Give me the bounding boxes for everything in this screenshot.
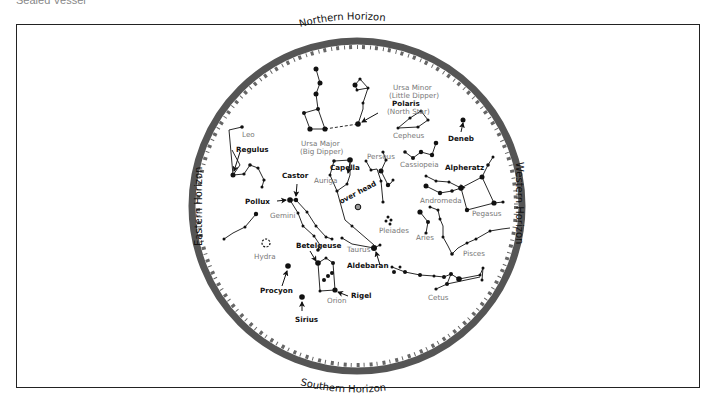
label-rigel: Rigel	[351, 291, 371, 300]
western-horizon-label: Western Horizon	[514, 162, 525, 244]
label-gemini: Gemini	[270, 211, 296, 220]
label-pleiades: Pleiades	[379, 226, 409, 235]
label-ursa-major-alt: (Big Dipper)	[300, 147, 344, 156]
star-chart: Northern Horizon Southern Horizon Easter…	[0, 0, 713, 402]
southern-horizon-label: Southern Horizon	[300, 376, 387, 394]
label-perseus: Perseus	[367, 152, 395, 161]
label-leo: Leo	[242, 130, 255, 139]
label-auriga: Auriga	[314, 176, 337, 185]
label-cetus: Cetus	[428, 293, 449, 302]
label-cassiopeia: Cassiopeia	[400, 160, 439, 169]
label-betelgeuse: Betelgeuse	[296, 241, 342, 250]
overhead-label: over head	[338, 179, 378, 206]
northern-horizon-label: Northern Horizon	[298, 10, 386, 28]
label-orion: Orion	[327, 296, 347, 305]
label-taurus: Taurus	[346, 245, 371, 254]
label-capella: Capella	[330, 163, 360, 172]
label-polaris-alt: (North Star)	[387, 107, 430, 116]
label-pollux: Pollux	[245, 197, 270, 206]
label-pegasus: Pegasus	[472, 209, 502, 218]
label-regulus: Regulus	[236, 145, 269, 154]
label-alpheratz: Alpheratz	[445, 163, 484, 172]
hydra-cluster	[262, 239, 270, 247]
label-castor: Castor	[282, 171, 309, 180]
label-procyon: Procyon	[260, 286, 293, 295]
label-deneb: Deneb	[448, 134, 474, 143]
label-hydra: Hydra	[254, 252, 276, 261]
label-aries: Aries	[416, 233, 434, 242]
label-sirius: Sirius	[295, 315, 318, 324]
eastern-horizon-label: Eastern Horizon	[193, 167, 204, 246]
label-andromeda: Andromeda	[420, 196, 462, 205]
overhead-marker	[355, 204, 361, 210]
label-pisces: Pisces	[463, 249, 485, 258]
label-cepheus: Cepheus	[393, 131, 425, 140]
pointer-arrows	[234, 113, 463, 311]
label-aldebaran: Aldebaran	[347, 261, 389, 270]
